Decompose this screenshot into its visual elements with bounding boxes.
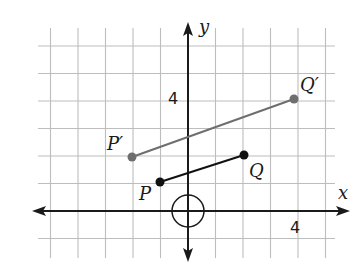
x-tick-label-4: 4 (290, 218, 300, 237)
y-axis-label: y (198, 16, 210, 37)
point-q (240, 151, 249, 160)
y-tick-label-4: 4 (168, 89, 178, 108)
coordinate-plane-diagram: x y 4 4 P Q P′ Q′ (0, 0, 357, 266)
point-p (156, 178, 165, 187)
label-q: Q (249, 160, 264, 181)
segment-pq (160, 155, 244, 182)
label-p-prime: P′ (106, 133, 123, 154)
point-q-prime (290, 95, 299, 104)
label-q-prime: Q′ (300, 74, 319, 95)
label-p: P (138, 183, 152, 204)
point-p-prime (128, 153, 137, 162)
x-axis-label: x (338, 182, 348, 203)
coordinate-plane-svg: x y 4 4 P Q P′ Q′ (0, 0, 357, 266)
